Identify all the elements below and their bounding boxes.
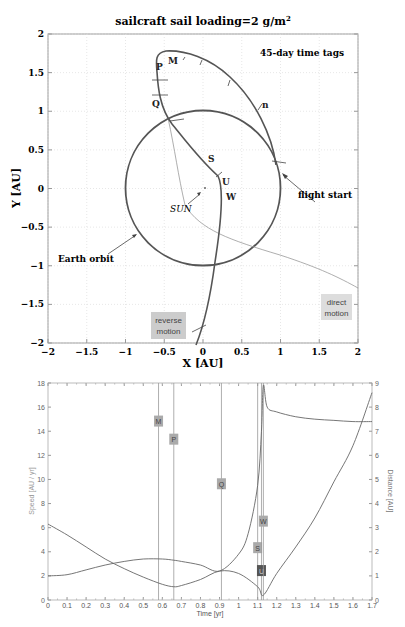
x-tick-label: −1 [119, 347, 133, 357]
event-label-w: W [260, 518, 267, 525]
x-tick-label: 0.3 [100, 602, 110, 609]
y-tick-label: −1 [30, 261, 44, 271]
y-tick-label: 0.5 [28, 145, 44, 155]
label-m: M [168, 56, 178, 66]
left-y-tick-label: 2 [41, 572, 45, 579]
y-tick-label: −0.5 [21, 222, 44, 232]
right-y-tick-label: 0 [375, 597, 379, 604]
x-tick-label: 1 [277, 347, 283, 357]
x-tick-label: 2 [355, 347, 361, 357]
left-y-tick-label: 14 [37, 428, 45, 435]
left-y-tick-label: 16 [37, 404, 45, 411]
label-s: S [208, 154, 215, 164]
y-tick-label: −1.5 [21, 299, 44, 309]
left-y-tick-label: 18 [37, 380, 45, 387]
right-y-tick-label: 7 [375, 428, 379, 435]
y-tick-label: 0 [38, 184, 44, 194]
svg-text:motion: motion [156, 327, 180, 336]
y-axis-label: Y [AU] [10, 168, 23, 209]
x-tick-label: 0 [46, 602, 50, 609]
x-tick-label: 1 [237, 602, 241, 609]
reverse-motion-box: reverse motion [151, 312, 186, 339]
x-axis-label: Time [yr] [197, 610, 224, 618]
right-y-axis-label: Distance [AU] [386, 470, 394, 513]
right-y-tick-label: 1 [375, 572, 379, 579]
x-tick-label: 1.5 [329, 602, 339, 609]
x-tick-label: −2 [41, 347, 55, 357]
label-q: Q [152, 99, 160, 109]
x-tick-label: 1.3 [291, 602, 301, 609]
label-w: W [225, 192, 237, 202]
label-n: n [262, 100, 269, 110]
left-y-tick-label: 0 [41, 597, 45, 604]
x-tick-label: 1.5 [311, 347, 327, 357]
x-tick-label: 1.2 [272, 602, 282, 609]
sun-label: SUN [170, 204, 193, 214]
x-tick-label: −0.5 [153, 347, 176, 357]
x-tick-label: 0.6 [157, 602, 167, 609]
x-tick-label: 0.9 [215, 602, 225, 609]
left-y-tick-label: 8 [41, 500, 45, 507]
x-axis-label: X [AU] [183, 357, 224, 370]
x-tick-label: −1.5 [75, 347, 98, 357]
event-label-p: P [171, 436, 176, 443]
x-tick-label: 1.1 [253, 602, 263, 609]
flight-start-label: flight start [298, 190, 353, 200]
y-tick-label: −2 [30, 338, 44, 348]
right-y-tick-label: 6 [375, 452, 379, 459]
right-y-tick-label: 8 [375, 404, 379, 411]
x-tick-label: 0.8 [196, 602, 206, 609]
x-tick-label: 0 [200, 347, 206, 357]
trajectory-plot: sailcraft sail loading=2 g/m2 −2−1.5−1−0… [10, 14, 361, 370]
speed-distance-plot: 00.10.20.30.40.50.60.70.80.911.11.21.31.… [28, 380, 394, 619]
event-label-s: S [255, 545, 260, 552]
svg-text:motion: motion [324, 309, 348, 318]
x-tick-label: 0.4 [119, 602, 129, 609]
svg-text:direct: direct [327, 298, 347, 307]
right-y-tick-label: 5 [375, 476, 379, 483]
figure: sailcraft sail loading=2 g/m2 −2−1.5−1−0… [0, 0, 405, 627]
left-y-tick-label: 10 [37, 476, 45, 483]
left-y-tick-label: 4 [41, 548, 45, 555]
plot-area [48, 34, 358, 343]
x-tick-label: 1.6 [348, 602, 358, 609]
left-y-axis-label: Speed [AU / yr] [28, 467, 36, 515]
x-tick-label: 0.1 [62, 602, 72, 609]
right-y-tick-label: 9 [375, 380, 379, 387]
left-y-tick-label: 12 [37, 452, 45, 459]
x-tick-label: 0.5 [138, 602, 148, 609]
x-tick-label: 0.2 [81, 602, 91, 609]
x-tick-label: 0.5 [234, 347, 250, 357]
event-label-m: M [156, 418, 162, 425]
direct-motion-box: direct motion [321, 294, 352, 320]
x-tick-label: 1.4 [310, 602, 320, 609]
left-y-tick-label: 6 [41, 524, 45, 531]
earth-orbit-label: Earth orbit [58, 254, 115, 264]
right-y-tick-label: 2 [375, 548, 379, 555]
y-tick-label: 1.5 [28, 68, 44, 78]
sun-marker [204, 187, 206, 189]
label-p: P [156, 62, 163, 72]
plot-title: sailcraft sail loading=2 g/m2 [115, 14, 291, 28]
right-y-tick-label: 3 [375, 524, 379, 531]
time-tags-note: 45-day time tags [260, 48, 344, 58]
y-tick-label: 1 [38, 106, 44, 116]
x-tick-label: 0.7 [177, 602, 187, 609]
right-y-tick-label: 4 [375, 500, 379, 507]
event-label-q: Q [219, 481, 225, 489]
label-u: U [222, 177, 230, 187]
y-tick-label: 2 [38, 29, 44, 39]
svg-text:reverse: reverse [155, 316, 182, 325]
